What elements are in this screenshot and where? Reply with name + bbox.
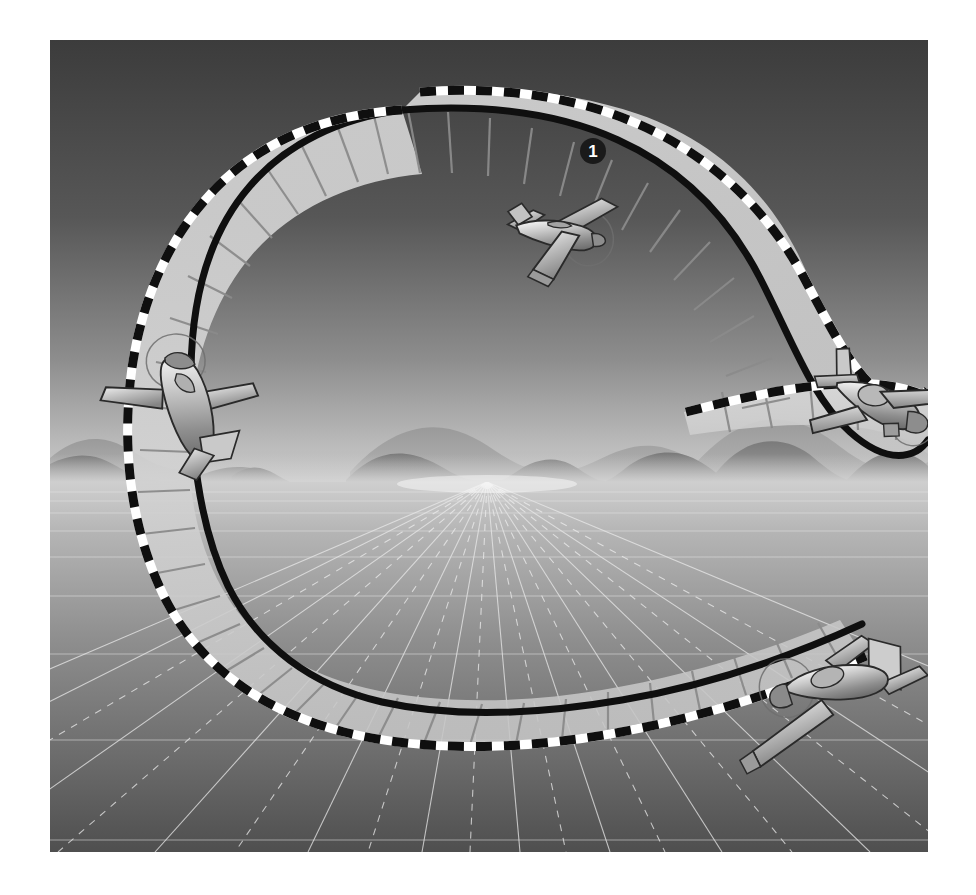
- callout-1-label: 1: [588, 142, 597, 161]
- illustration-page: 1: [0, 0, 976, 895]
- scene-group: 1: [50, 40, 928, 852]
- vanishing-point-glow: [397, 475, 577, 493]
- callout-1[interactable]: 1: [580, 138, 606, 164]
- flight-maneuver-illustration: 1: [50, 40, 928, 852]
- gear-fairing-2: [882, 422, 900, 438]
- scene-canvas: 1: [50, 40, 928, 852]
